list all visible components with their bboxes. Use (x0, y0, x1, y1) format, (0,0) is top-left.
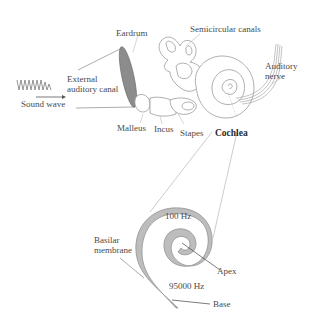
cochlea-shape (195, 56, 254, 118)
semicircular-canals-label: Semicircular canals (190, 24, 261, 34)
external-canal-bottom-line (76, 107, 134, 108)
sound-wave-icon (17, 80, 51, 90)
ear-anatomy-drawing (0, 0, 314, 317)
external-canal-label-line2: auditory canal (67, 84, 118, 94)
ossicles-shape (135, 94, 196, 116)
basilar-membrane-label-line2: membrane (94, 245, 132, 255)
freq-95000hz-label: 95000 Hz (169, 281, 204, 291)
basilar-membrane-label-line1: Basilar (94, 235, 120, 245)
auditory-nerve-label-line2: nerve (265, 71, 285, 81)
ear-diagram: Eardrum Semicircular canals Auditory ner… (0, 0, 314, 317)
eardrum-label: Eardrum (116, 28, 148, 38)
incus-label: Incus (154, 124, 174, 134)
magnify-line-left (150, 132, 212, 212)
magnify-line-right (213, 132, 237, 238)
malleus-label: Malleus (117, 123, 146, 133)
auditory-nerve-label-line1: Auditory (265, 61, 298, 71)
apex-label: Apex (217, 266, 237, 276)
freq-100hz-label: 100 Hz (165, 211, 191, 221)
external-canal-label-line1: External (67, 74, 98, 84)
basilar-membrane-spiral (136, 208, 212, 308)
sound-wave-label: Sound wave (21, 99, 65, 109)
cochlea-label: Cochlea (215, 128, 248, 138)
base-label: Base (213, 299, 231, 309)
external-canal-top-line (78, 48, 122, 70)
stapes-label: Stapes (180, 128, 204, 138)
